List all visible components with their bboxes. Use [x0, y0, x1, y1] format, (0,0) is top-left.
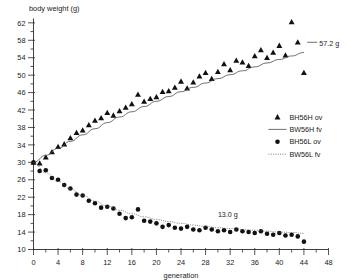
legend-item-label: BW56H fv: [290, 125, 323, 134]
data-point-triangle: [221, 61, 227, 66]
x-tick-label: 28: [201, 258, 209, 267]
x-tick-label: 20: [152, 258, 160, 267]
data-point-circle: [154, 221, 159, 226]
data-point-triangle: [86, 122, 92, 127]
data-point-triangle: [203, 70, 209, 75]
legend-item: BW56H fv: [269, 125, 323, 134]
legend-item-label: BH56H ov: [290, 113, 323, 122]
data-point-triangle: [246, 63, 252, 68]
x-tick-label: 44: [300, 258, 308, 267]
annotation-label: 57.2 g: [319, 39, 339, 48]
data-point-triangle: [98, 115, 104, 120]
y-tick-label: 30: [17, 158, 25, 167]
data-point-circle: [185, 225, 190, 230]
data-point-triangle: [301, 70, 307, 75]
data-point-triangle: [80, 127, 86, 132]
data-point-triangle: [129, 101, 135, 106]
data-point-triangle: [117, 108, 123, 113]
data-point-triangle: [190, 79, 196, 84]
y-tick-label: 18: [17, 210, 25, 219]
y-tick-label: 46: [17, 88, 25, 97]
y-tick-label: 14: [17, 228, 25, 237]
data-point-circle: [197, 228, 202, 233]
data-point-triangle: [135, 91, 141, 96]
data-point-triangle: [240, 59, 246, 64]
data-point-circle: [43, 168, 48, 173]
data-point-circle: [87, 198, 92, 203]
x-axis: 04812162024283236404448generation: [31, 248, 332, 280]
data-point-circle: [130, 215, 135, 220]
x-tick-label: 40: [275, 258, 283, 267]
data-point-circle: [166, 223, 171, 228]
data-point-circle: [142, 218, 147, 223]
data-point-circle: [271, 232, 276, 237]
x-tick-label: 32: [226, 258, 234, 267]
x-axis-title: generation: [164, 271, 199, 280]
data-point-triangle: [289, 19, 295, 24]
series-points-bh56h-ov: [31, 19, 307, 165]
data-point-circle: [222, 228, 227, 233]
data-point-circle: [99, 205, 104, 210]
data-point-circle: [93, 201, 98, 206]
data-point-circle: [136, 207, 141, 212]
y-tick-label: 42: [17, 106, 25, 115]
data-point-triangle: [196, 73, 202, 78]
data-point-circle: [289, 232, 294, 237]
data-point-circle: [259, 229, 264, 234]
y-tick-label: 22: [17, 193, 25, 202]
y-tick-label: 34: [17, 141, 25, 150]
data-point-triangle: [264, 55, 270, 60]
data-point-triangle: [270, 50, 276, 55]
y-tick-label: 38: [17, 123, 25, 132]
data-point-circle: [228, 230, 233, 235]
data-point-circle: [179, 226, 184, 231]
data-point-circle: [68, 186, 73, 191]
data-point-circle: [191, 227, 196, 232]
y-axis-title: body weight (g): [29, 4, 80, 13]
data-point-circle: [234, 227, 239, 232]
data-point-triangle: [209, 76, 215, 81]
x-tick-label: 4: [56, 258, 60, 267]
data-point-triangle: [74, 130, 80, 135]
data-point-circle: [216, 229, 221, 234]
y-tick-label: 26: [17, 175, 25, 184]
legend-item-label: BW56L fv: [290, 150, 321, 159]
data-point-circle: [265, 232, 270, 237]
data-point-triangle: [233, 57, 239, 62]
y-axis: 1014182226303438424650545862body weight …: [17, 4, 79, 254]
series-line-bw56h-fv: [34, 53, 304, 163]
series-line-bw56l-fv: [34, 162, 304, 233]
data-point-circle: [37, 169, 42, 174]
data-point-circle: [123, 216, 128, 221]
data-point-circle: [105, 204, 110, 209]
data-point-circle: [148, 219, 153, 224]
x-tick-label: 36: [251, 258, 259, 267]
data-point-circle: [302, 239, 307, 244]
data-point-triangle: [178, 78, 184, 83]
data-point-circle: [111, 206, 116, 211]
data-point-triangle: [147, 96, 153, 101]
legend-item: BH56H ov: [275, 113, 323, 122]
data-point-triangle: [141, 98, 147, 103]
data-point-circle: [295, 234, 300, 239]
y-tick-label: 50: [17, 71, 25, 80]
data-point-triangle: [123, 105, 129, 110]
series-points-bh56l-ov: [31, 160, 306, 244]
data-point-triangle: [104, 110, 110, 115]
data-point-circle: [173, 225, 178, 230]
data-point-triangle: [295, 39, 301, 44]
data-point-triangle: [110, 112, 116, 117]
data-point-triangle: [153, 94, 159, 99]
x-tick-label: 0: [31, 258, 35, 267]
data-point-triangle: [61, 141, 67, 146]
circle-marker-icon: [275, 140, 280, 145]
fit-curve: [34, 53, 304, 163]
legend-item: BW56L fv: [269, 150, 321, 159]
chart-canvas: 1014182226303438424650545862body weight …: [0, 0, 351, 280]
data-point-triangle: [215, 69, 221, 74]
data-point-circle: [209, 227, 214, 232]
y-tick-label: 10: [17, 245, 25, 254]
data-point-triangle: [276, 43, 282, 48]
y-tick-label: 58: [17, 36, 25, 45]
x-tick-label: 24: [177, 258, 185, 267]
